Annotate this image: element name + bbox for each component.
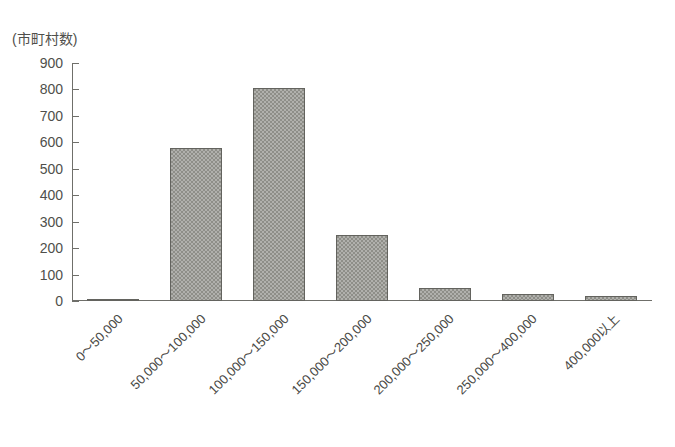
bar-slot — [321, 63, 404, 301]
bar — [253, 88, 305, 301]
bar-slot — [486, 63, 569, 301]
y-axis-tick-label: 800 — [40, 81, 63, 97]
plot-area: 9008007006005004003002001000 — [72, 63, 652, 301]
bar — [502, 294, 554, 301]
bar-chart: (市町村数) 9008007006005004003002001000 0〜50… — [0, 0, 675, 447]
bar-slot — [569, 63, 652, 301]
y-axis-tick-label: 500 — [40, 161, 63, 177]
y-axis-tick-label: 100 — [40, 267, 63, 283]
y-axis-tick-label: 300 — [40, 214, 63, 230]
y-axis-tick-label: 900 — [40, 55, 63, 71]
y-axis-tick-label: 400 — [40, 187, 63, 203]
bar — [170, 148, 222, 301]
x-axis-tick-label: 400,000以上 — [559, 309, 624, 374]
y-axis-tick-label: 700 — [40, 108, 63, 124]
bar-slot — [72, 63, 155, 301]
x-label-slot: 250,000〜400,000 — [486, 301, 569, 441]
bar — [419, 288, 471, 301]
y-axis-tick-label: 200 — [40, 240, 63, 256]
x-axis-labels: 0〜50,00050,000〜100,000100,000〜150,000150… — [72, 301, 652, 441]
bar-slot — [403, 63, 486, 301]
bar-series — [72, 63, 652, 301]
y-axis-tick-label: 600 — [40, 134, 63, 150]
x-label-slot: 400,000以上 — [569, 301, 652, 441]
y-axis-tick-label: 0 — [55, 293, 63, 309]
bar-slot — [155, 63, 238, 301]
x-axis-tick-label: 0〜50,000 — [71, 309, 127, 365]
bar — [336, 235, 388, 301]
bar-slot — [238, 63, 321, 301]
y-axis-unit-caption: (市町村数) — [12, 28, 77, 48]
